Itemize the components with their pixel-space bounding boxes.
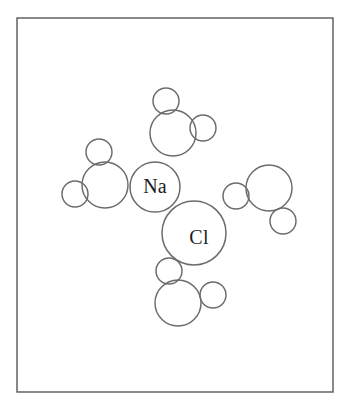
solvation-figure: Na Cl <box>0 0 350 415</box>
chloride-ion-label: Cl <box>189 226 209 248</box>
solvation-diagram-canvas: Na Cl <box>0 0 350 415</box>
sodium-ion-label: Na <box>143 175 167 197</box>
figure-frame <box>17 18 333 392</box>
